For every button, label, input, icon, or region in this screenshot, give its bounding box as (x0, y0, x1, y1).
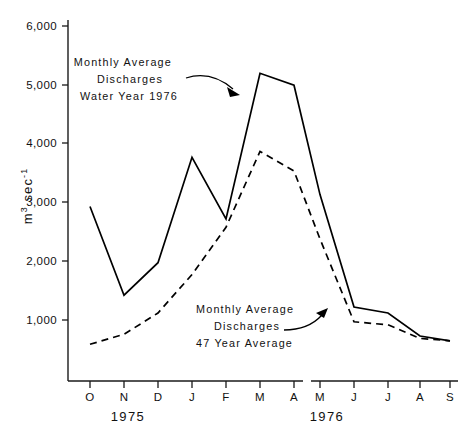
y-tick-label-4000: 4,000 (26, 137, 57, 149)
x-tick-label-sep: S (446, 391, 454, 403)
y-tick-label-1000: 1,000 (26, 314, 57, 326)
x-tick-label-jun: J (351, 391, 357, 403)
chart-container: m3 sec-1 1,000 2,000 3,000 4,000 5,000 6… (0, 0, 466, 429)
y-axis-label-sup2: -1 (19, 168, 29, 178)
series-line-water-year-1976 (90, 73, 450, 341)
year-label-1975: 1975 (111, 409, 146, 424)
annotation-water-year-1976: Monthly Average Discharges Water Year 19… (74, 56, 240, 102)
x-axis-tick-labels: O N D J F M A M J J A S (85, 391, 454, 403)
annotation-47-year-average: Monthly Average Discharges 47 Year Avera… (196, 303, 328, 349)
annotation-solid-arrow-head-icon (227, 87, 240, 97)
y-tick-label-5000: 5,000 (26, 79, 57, 91)
x-tick-label-feb: F (222, 391, 229, 403)
x-axis-ticks (90, 381, 450, 388)
x-tick-label-oct: O (85, 391, 94, 403)
year-label-1976: 1976 (310, 409, 345, 424)
annotation-dashed-line-1: Monthly Average (196, 303, 294, 315)
annotation-dashed-line-3: 47 Year Average (196, 337, 293, 349)
annotation-solid-line-2: Discharges (97, 73, 163, 85)
annotation-solid-line-1: Monthly Average (74, 56, 172, 68)
x-tick-label-jul: J (385, 391, 391, 403)
y-tick-label-6000: 6,000 (26, 20, 57, 32)
annotation-dashed-arrow-head-icon (316, 308, 328, 318)
x-axis-year-labels: 1975 1976 (111, 409, 345, 424)
annotation-solid-arrow-line (186, 76, 233, 89)
annotation-dashed-arrow-line (284, 315, 322, 330)
x-tick-label-nov: N (120, 391, 129, 403)
y-axis-ticks: 1,000 2,000 3,000 4,000 5,000 6,000 (26, 20, 68, 326)
x-tick-label-may: M (315, 391, 325, 403)
discharge-line-chart: m3 sec-1 1,000 2,000 3,000 4,000 5,000 6… (0, 0, 466, 429)
y-tick-label-2000: 2,000 (26, 255, 57, 267)
annotation-solid-line-3: Water Year 1976 (80, 90, 178, 102)
x-tick-label-mar: M (255, 391, 265, 403)
x-tick-label-dec: D (154, 391, 163, 403)
x-tick-label-apr: A (290, 391, 298, 403)
y-axis-label-base1: m (20, 212, 35, 224)
series-line-47-year-average (90, 151, 450, 344)
x-tick-label-aug: A (416, 391, 424, 403)
x-tick-label-jan: J (189, 391, 195, 403)
annotation-dashed-line-2: Discharges (214, 320, 280, 332)
y-tick-label-3000: 3,000 (26, 196, 57, 208)
